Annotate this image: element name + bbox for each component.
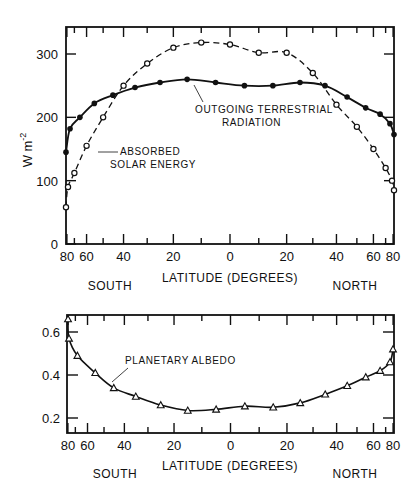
- filled-circle-marker: [132, 85, 138, 91]
- filled-circle-marker: [363, 105, 369, 111]
- bottom-x-ticks: [68, 315, 393, 433]
- open-circle-marker: [334, 102, 339, 107]
- top-panel: 0 100 200 300 W m-2 80604020020406080 LA…: [18, 27, 400, 293]
- top-y-tick-200: 200: [36, 110, 58, 125]
- top-x-tick-label: 20: [279, 249, 293, 264]
- open-circle-marker: [391, 188, 396, 193]
- filled-circle-marker: [77, 115, 83, 121]
- bottom-x-tick-label: 60: [80, 438, 94, 453]
- top-plot-frame: [66, 27, 394, 244]
- filled-circle-marker: [110, 92, 116, 98]
- filled-circle-marker: [157, 80, 163, 86]
- filled-circle-marker: [322, 83, 328, 89]
- open-circle-marker: [65, 184, 70, 189]
- open-circle-marker: [227, 42, 232, 47]
- top-x-ticks: [67, 27, 393, 244]
- bottom-x-tick-label: 40: [117, 438, 131, 453]
- open-circle-marker: [371, 146, 376, 151]
- top-x-tick-label: 40: [116, 249, 130, 264]
- top-x-tick-label: 60: [79, 249, 93, 264]
- svg-text:W m-2: W m-2: [18, 133, 35, 168]
- top-x-tick-label: 40: [329, 249, 343, 264]
- bottom-x-tick-labels: 80604020020406080: [61, 438, 401, 453]
- top-y-ticks: [66, 54, 394, 244]
- outgoing-radiation-line: [66, 79, 394, 152]
- open-triangle-marker: [390, 346, 397, 352]
- open-circle-marker: [121, 83, 126, 88]
- annotation-albedo: PLANETARY ALBEDO: [125, 355, 236, 366]
- open-circle-marker: [383, 165, 388, 170]
- top-x-tick-label: 80: [60, 249, 74, 264]
- bottom-x-tick-label: 0: [227, 438, 234, 453]
- bottom-panel: 0.2 0.4 0.6 80604020020406080 LATITUDE (…: [42, 315, 400, 481]
- filled-circle-marker: [297, 80, 303, 86]
- filled-circle-marker: [92, 101, 98, 107]
- filled-circle-marker: [377, 111, 383, 117]
- open-triangle-marker: [387, 359, 394, 365]
- open-circle-marker: [171, 45, 176, 50]
- bottom-y-tick-0.6: 0.6: [42, 325, 60, 340]
- open-circle-marker: [284, 50, 289, 55]
- top-y-tick-0: 0: [51, 237, 58, 252]
- bottom-y-ticks: [67, 332, 394, 418]
- filled-circle-marker: [242, 83, 248, 89]
- open-circle-marker: [145, 61, 150, 66]
- y-label-superscript: -2: [18, 133, 28, 141]
- open-circle-marker: [72, 170, 77, 175]
- top-south-label: SOUTH: [88, 279, 133, 293]
- annotation-absorbed-line2: SOLAR ENERGY: [110, 159, 196, 170]
- y-label-text: W m: [20, 141, 35, 168]
- bottom-x-tick-label: 40: [329, 438, 343, 453]
- open-circle-marker: [389, 178, 394, 183]
- annotation-outgoing-pointer: [194, 85, 203, 102]
- bottom-x-tick-label: 20: [280, 438, 294, 453]
- filled-circle-marker: [67, 126, 73, 132]
- bottom-x-tick-label: 60: [366, 438, 380, 453]
- filled-circle-marker: [270, 83, 276, 89]
- top-x-tick-labels: 80604020020406080: [60, 249, 401, 264]
- bottom-x-tick-label: 80: [386, 438, 400, 453]
- top-y-tick-100: 100: [36, 174, 58, 189]
- figure: 0 100 200 300 W m-2 80604020020406080 LA…: [0, 0, 417, 501]
- open-circle-marker: [256, 50, 261, 55]
- open-circle-marker: [199, 40, 204, 45]
- annotation-absorbed-line1: ABSORBED: [120, 146, 180, 157]
- open-circle-marker: [354, 124, 359, 129]
- open-triangle-marker: [65, 316, 72, 322]
- open-circle-marker: [310, 70, 315, 75]
- top-x-tick-label: 0: [226, 249, 233, 264]
- annotation-outgoing-line2: RADIATION: [222, 117, 281, 128]
- bottom-plot-frame: [67, 315, 394, 433]
- annotation-outgoing-line1: OUTGOING TERRESTRIAL: [195, 104, 333, 115]
- bottom-x-tick-label: 80: [61, 438, 75, 453]
- filled-circle-marker: [344, 94, 350, 100]
- filled-circle-marker: [184, 77, 190, 83]
- bottom-x-tick-label: 20: [167, 438, 181, 453]
- bottom-y-tick-0.2: 0.2: [42, 411, 60, 426]
- top-north-label: NORTH: [333, 279, 378, 293]
- filled-circle-marker: [391, 132, 397, 138]
- bottom-north-label: NORTH: [333, 467, 378, 481]
- filled-circle-marker: [213, 80, 219, 86]
- top-y-axis-label: W m-2: [18, 133, 35, 168]
- top-x-tick-label: 60: [366, 249, 380, 264]
- top-y-tick-300: 300: [36, 47, 58, 62]
- bottom-x-axis-label: LATITUDE (DEGREES): [162, 459, 298, 473]
- open-circle-marker: [84, 143, 89, 148]
- top-x-tick-label: 20: [166, 249, 180, 264]
- top-x-axis-label: LATITUDE (DEGREES): [162, 271, 298, 285]
- bottom-south-label: SOUTH: [93, 467, 138, 481]
- annotation-albedo-pointer: [112, 368, 128, 382]
- filled-circle-marker: [63, 149, 69, 155]
- top-x-tick-label: 80: [386, 249, 400, 264]
- filled-circle-marker: [387, 121, 393, 127]
- open-circle-marker: [101, 115, 106, 120]
- open-circle-marker: [63, 205, 68, 210]
- bottom-y-tick-0.4: 0.4: [42, 368, 60, 383]
